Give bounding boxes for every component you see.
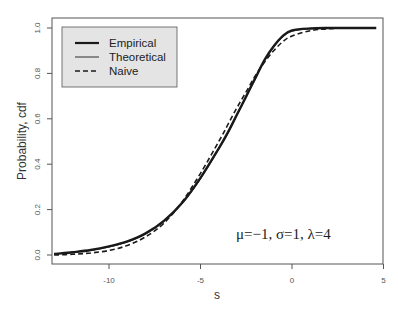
y-tick-label: 1.0 (33, 22, 42, 34)
y-axis-ticks: 0.00.20.40.60.81.0 (33, 22, 52, 261)
y-axis-label: Probability, cdf (15, 101, 29, 179)
legend-label-naive: Naive (109, 65, 138, 77)
y-tick-label: 0.4 (33, 158, 42, 170)
x-tick-label: -10 (103, 276, 115, 285)
y-tick-label: 0.6 (33, 113, 42, 125)
x-tick-label: 0 (290, 276, 295, 285)
legend-label-empirical: Empirical (109, 37, 156, 49)
cdf-chart: -10-505 0.00.20.40.60.81.0 Empirical The… (0, 0, 398, 311)
y-tick-label: 0.2 (33, 203, 42, 215)
legend-label-theoretical: Theoretical (109, 51, 166, 63)
legend: Empirical Theoretical Naive (62, 27, 177, 87)
x-tick-label: -5 (197, 276, 205, 285)
parameter-annotation: μ=−1, σ=1, λ=4 (236, 226, 331, 242)
x-axis-label: s (214, 288, 220, 302)
x-axis-ticks: -10-505 (103, 264, 386, 285)
y-tick-label: 0.0 (33, 249, 42, 261)
x-tick-label: 5 (381, 276, 386, 285)
y-tick-label: 0.8 (33, 67, 42, 79)
